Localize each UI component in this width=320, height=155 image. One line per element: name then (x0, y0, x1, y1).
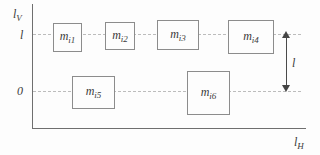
x-axis-line (32, 128, 306, 129)
mass-box-mi6-label: mi6 (201, 85, 217, 101)
arrow-length-label: l (292, 57, 295, 69)
distance-arrow-line (286, 36, 287, 86)
mass-box-mi5-label: mi5 (86, 84, 102, 100)
y-axis-line (32, 4, 33, 128)
tick-label-l: l (20, 29, 23, 41)
x-axis-label: lH (294, 136, 304, 151)
mass-box-mi4-label: mi4 (243, 29, 259, 45)
mass-box-mi2-label: mi2 (112, 28, 128, 44)
tick-label-0: 0 (17, 85, 23, 97)
mass-box-mi6: mi6 (187, 71, 230, 115)
mass-box-mi3-label: mi3 (170, 27, 186, 43)
arrow-down-icon (282, 85, 290, 92)
mass-box-mi4: mi4 (228, 20, 274, 54)
mass-box-mi2: mi2 (105, 22, 135, 50)
mass-box-mi1: mi1 (53, 23, 82, 52)
mass-box-mi3: mi3 (157, 20, 199, 50)
figure-canvas: lV l 0 lH mi1 mi2 mi3 mi4 mi5 mi6 l (0, 0, 320, 155)
y-axis-label: lV (13, 8, 22, 23)
mass-box-mi1-label: mi1 (60, 29, 76, 45)
mass-box-mi5: mi5 (72, 76, 115, 109)
